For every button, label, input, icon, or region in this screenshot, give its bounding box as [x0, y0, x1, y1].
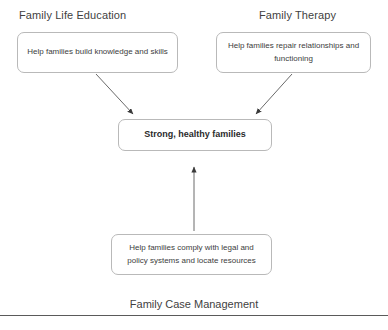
node-family-life-education-label: Help families build knowledge and skills	[27, 46, 168, 58]
caption-family-case-management: Family Case Management	[0, 298, 388, 310]
arrow-family-therapy-to-outcome	[256, 74, 292, 114]
node-family-case-management: Help families comply with legal and poli…	[111, 234, 272, 275]
bottom-divider	[0, 315, 388, 316]
section-title-family-therapy: Family Therapy	[259, 9, 336, 21]
node-family-therapy: Help families repair relationships and f…	[216, 32, 371, 73]
diagram-canvas: Family Life Education Family Therapy Hel…	[0, 0, 388, 330]
node-family-case-management-label: Help families comply with legal and poli…	[120, 242, 263, 267]
node-family-life-education: Help families build knowledge and skills	[17, 32, 178, 73]
node-strong-healthy-families-label: Strong, healthy families	[144, 128, 246, 142]
node-family-therapy-label: Help families repair relationships and f…	[225, 40, 362, 65]
node-strong-healthy-families: Strong, healthy families	[118, 119, 272, 151]
section-title-family-life-education: Family Life Education	[19, 9, 126, 21]
arrow-family-life-education-to-outcome	[96, 74, 133, 114]
